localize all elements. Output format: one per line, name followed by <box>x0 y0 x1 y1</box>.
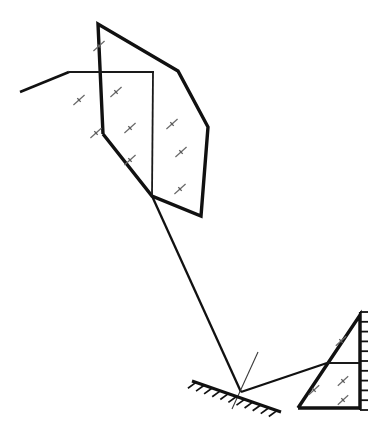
diagram-root <box>0 0 380 442</box>
canvas-background <box>0 0 380 442</box>
inner-line-vertical <box>152 72 153 196</box>
ray-diagram-canvas <box>0 0 380 442</box>
